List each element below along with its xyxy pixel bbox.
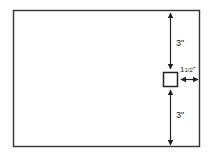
right-dimension-unit: " (193, 65, 196, 74)
bottom-dimension-label: 3" (176, 110, 184, 120)
dimension-diagram: 3" 3" 11/2" (0, 0, 210, 156)
top-dimension-label: 3" (176, 38, 184, 48)
outer-rectangle (14, 11, 200, 147)
right-dimension-label: 11/2" (180, 65, 196, 74)
square-marker (164, 73, 178, 87)
